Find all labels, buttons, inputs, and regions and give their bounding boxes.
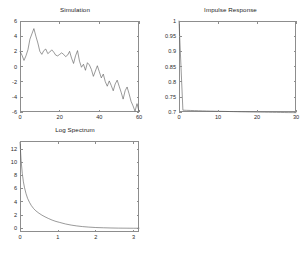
- x-tick-mark-top: [59, 21, 60, 24]
- panel-simulation: Simulation -6-4-202460204060: [0, 2, 150, 120]
- y-tick-mark: [20, 36, 23, 37]
- y-tick-label: 0: [0, 225, 17, 231]
- x-tick-mark-top: [257, 21, 258, 24]
- y-tick-mark: [179, 21, 182, 22]
- y-tick-mark-right: [294, 112, 297, 113]
- y-tick-mark: [20, 188, 23, 189]
- x-tick-mark: [257, 110, 258, 113]
- y-tick-label: 0.7: [155, 109, 176, 115]
- y-tick-mark: [20, 66, 23, 67]
- y-tick-mark-right: [137, 36, 140, 37]
- x-tick-mark-top: [20, 21, 21, 24]
- y-tick-label: 0.85: [155, 64, 176, 70]
- y-tick-label: 12: [0, 146, 17, 152]
- x-tick-label: 3: [132, 234, 135, 240]
- y-tick-label: 4: [0, 33, 17, 39]
- x-tick-mark: [179, 110, 180, 113]
- y-tick-mark-right: [294, 97, 297, 98]
- x-tick-mark: [20, 230, 21, 233]
- x-tick-label: 1: [56, 234, 59, 240]
- x-tick-label: 0: [18, 114, 21, 120]
- y-tick-mark-right: [294, 36, 297, 37]
- y-tick-label: 6: [0, 18, 17, 24]
- x-tick-label: 0: [18, 234, 21, 240]
- y-tick-mark: [20, 97, 23, 98]
- y-tick-mark: [20, 228, 23, 229]
- y-tick-mark: [20, 201, 23, 202]
- y-tick-mark: [179, 36, 182, 37]
- x-tick-label: 40: [96, 114, 102, 120]
- y-tick-label: -6: [0, 109, 17, 115]
- page-bottom-crop: [0, 246, 306, 258]
- y-tick-mark: [20, 162, 23, 163]
- y-tick-mark: [179, 66, 182, 67]
- x-tick-mark-top: [20, 141, 21, 144]
- y-tick-mark: [20, 149, 23, 150]
- y-tick-mark-right: [137, 162, 140, 163]
- y-tick-label: -4: [0, 94, 17, 100]
- x-tick-label: 2: [94, 234, 97, 240]
- y-tick-label: -2: [0, 79, 17, 85]
- x-tick-mark: [99, 110, 100, 113]
- x-tick-mark-top: [179, 21, 180, 24]
- x-tick-label: 20: [57, 114, 63, 120]
- y-tick-mark-right: [137, 175, 140, 176]
- x-tick-mark-top: [133, 141, 134, 144]
- x-tick-label: 20: [254, 114, 260, 120]
- x-tick-mark-top: [95, 141, 96, 144]
- x-tick-mark-top: [218, 21, 219, 24]
- y-tick-label: 10: [0, 159, 17, 165]
- y-tick-label: 1: [155, 18, 176, 24]
- x-tick-mark: [95, 230, 96, 233]
- y-tick-mark-right: [137, 97, 140, 98]
- y-tick-label: 8: [0, 172, 17, 178]
- y-tick-label: 0.75: [155, 94, 176, 100]
- y-tick-mark-right: [137, 188, 140, 189]
- x-tick-mark: [58, 230, 59, 233]
- x-tick-label: 30: [293, 114, 299, 120]
- y-tick-label: 0.9: [155, 48, 176, 54]
- y-tick-mark-right: [137, 201, 140, 202]
- y-tick-mark: [20, 175, 23, 176]
- y-tick-label: 2: [0, 212, 17, 218]
- x-tick-label: 10: [215, 114, 221, 120]
- y-tick-mark: [20, 81, 23, 82]
- x-tick-mark: [218, 110, 219, 113]
- x-tick-mark-top: [296, 21, 297, 24]
- y-tick-mark-right: [137, 21, 140, 22]
- x-tick-mark-top: [99, 21, 100, 24]
- y-tick-mark-right: [294, 51, 297, 52]
- x-tick-mark: [20, 110, 21, 113]
- y-tick-mark-right: [137, 51, 140, 52]
- x-tick-mark: [133, 230, 134, 233]
- y-tick-mark-right: [137, 112, 140, 113]
- y-tick-mark: [20, 215, 23, 216]
- y-tick-mark-right: [137, 66, 140, 67]
- y-tick-mark-right: [137, 149, 140, 150]
- y-tick-mark-right: [137, 215, 140, 216]
- x-tick-mark-top: [58, 141, 59, 144]
- y-tick-label: 2: [0, 48, 17, 54]
- y-tick-mark: [179, 81, 182, 82]
- y-tick-mark-right: [294, 81, 297, 82]
- y-tick-mark: [20, 51, 23, 52]
- x-tick-label: 60: [136, 114, 142, 120]
- y-tick-mark: [20, 112, 23, 113]
- y-tick-mark-right: [137, 228, 140, 229]
- figure-canvas: Simulation -6-4-202460204060 Impulse Res…: [0, 0, 306, 258]
- x-tick-mark-top: [139, 21, 140, 24]
- panel-log-spectrum: Log Spectrum 0246810120123: [0, 122, 150, 244]
- y-tick-mark: [179, 51, 182, 52]
- y-tick-label: 0.8: [155, 79, 176, 85]
- y-tick-label: 0: [0, 64, 17, 70]
- y-tick-mark: [179, 112, 182, 113]
- y-tick-label: 4: [0, 199, 17, 205]
- y-tick-label: 0.95: [155, 33, 176, 39]
- y-tick-label: 6: [0, 185, 17, 191]
- panel-impulse-response: Impulse Response 0.70.750.80.850.90.9510…: [153, 2, 306, 120]
- y-tick-mark-right: [294, 21, 297, 22]
- panel-empty: [153, 122, 306, 244]
- x-tick-label: 0: [177, 114, 180, 120]
- y-tick-mark-right: [137, 81, 140, 82]
- x-tick-mark: [59, 110, 60, 113]
